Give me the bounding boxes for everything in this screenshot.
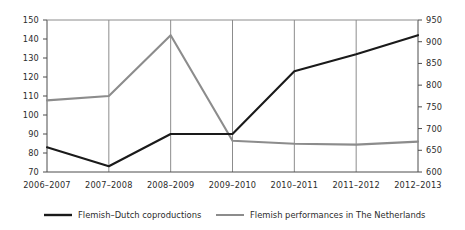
right-axis-tick-label: 900 xyxy=(426,37,442,47)
legend-item-label: Flemish–Dutch coproductions xyxy=(78,210,201,220)
right-axis-tick-label: 700 xyxy=(426,124,442,134)
right-axis-tick-label: 750 xyxy=(426,102,442,112)
left-axis-tick-label: 120 xyxy=(23,72,39,82)
x-axis-tick-label: 2006–2007 xyxy=(23,180,71,190)
left-axis-tick-label: 110 xyxy=(23,91,39,101)
dual-axis-line-chart: 150140130120110100908070 950900850800750… xyxy=(0,0,465,230)
x-axis-tick-label: 2012–2013 xyxy=(394,180,442,190)
x-axis-category-labels: 2006–20072007–20082008–20092009–20102010… xyxy=(23,180,442,190)
right-axis-tick-label: 800 xyxy=(426,80,442,90)
right-axis-tick-label: 650 xyxy=(426,145,442,155)
left-axis-tick-label: 130 xyxy=(23,53,39,63)
left-axis-tick-label: 100 xyxy=(23,110,39,120)
left-axis-tick-label: 80 xyxy=(28,148,39,158)
x-axis-tick-label: 2007–2008 xyxy=(85,180,133,190)
right-axis-tick-label: 950 xyxy=(426,15,442,25)
left-axis-tick-label: 150 xyxy=(23,15,39,25)
left-axis-tick-label: 70 xyxy=(28,167,39,177)
x-axis-tick-label: 2010–2011 xyxy=(271,180,319,190)
right-axis-tick-label: 600 xyxy=(426,167,442,177)
x-axis-tick-label: 2008–2009 xyxy=(147,180,195,190)
chart-container: 150140130120110100908070 950900850800750… xyxy=(0,0,465,230)
right-axis-tick-label: 850 xyxy=(426,58,442,68)
left-axis-tick-label: 140 xyxy=(23,34,39,44)
x-axis-tick-label: 2011–2012 xyxy=(332,180,380,190)
x-axis-tick-label: 2009–2010 xyxy=(209,180,257,190)
legend-item-label: Flemish performances in The Netherlands xyxy=(250,210,425,220)
left-axis-tick-label: 90 xyxy=(28,129,39,139)
